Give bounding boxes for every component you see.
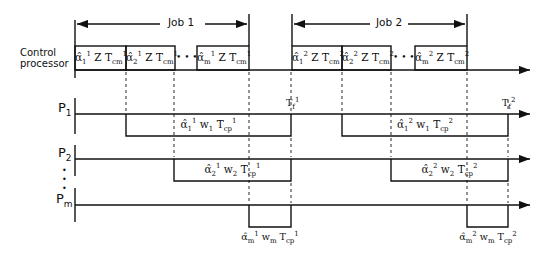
compute-p1-job2: α̂12 w1 Tcp2	[342, 117, 508, 133]
control-processor-label: Control processor	[20, 47, 69, 69]
job-2-label: Job 2	[372, 16, 406, 28]
finish-time-job2: Tf2	[502, 96, 515, 111]
finish-time-job1: Tf1	[286, 96, 299, 111]
control-label-line1: Control	[20, 47, 69, 58]
vertical-ellipsis: • • •	[62, 166, 67, 193]
p2-label: P2	[58, 145, 72, 163]
ellipsis-job1: • • •	[176, 52, 196, 62]
control-box-2-1: α̂21 Z Tcm1	[126, 50, 175, 66]
control-box-2-2: α̂22 Z Tcm2	[342, 50, 391, 66]
compute-p2-job2: α̂22 w2 Tcp2	[391, 162, 508, 178]
job-1-label: Job 1	[164, 16, 198, 28]
compute-p1-job1: α̂11 w1 Tcp1	[126, 117, 291, 133]
p1-label: P1	[58, 100, 72, 118]
compute-pm-job1: α̂m1 wm Tcp1	[240, 230, 300, 245]
pm-label: Pm	[56, 191, 73, 209]
compute-p2-job1: α̂21 w2 Tcp1	[174, 162, 291, 178]
control-box-m-2: α̂m2 Z Tcm2	[415, 50, 467, 66]
control-label-line2: processor	[20, 58, 69, 69]
control-box-1-1: α̂11 Z Tcm1	[75, 50, 126, 66]
compute-pm-job2: α̂m2 wm Tcp2	[458, 230, 518, 245]
control-box-1-2: α̂12 Z Tcm2	[292, 50, 342, 66]
control-box-m-1: α̂m1 Z Tcm1	[197, 50, 249, 66]
ellipsis-job2: • • •	[393, 52, 413, 62]
